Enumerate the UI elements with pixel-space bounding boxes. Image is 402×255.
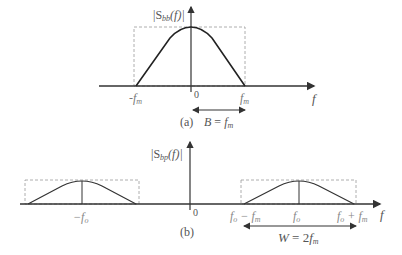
caption-a: (a) bbox=[180, 116, 193, 128]
x-axis-label-b: f bbox=[380, 208, 384, 221]
tick-label-neg-fo: −fo bbox=[73, 211, 88, 225]
tick-label-fo-plus-fm: fo + fm bbox=[337, 210, 368, 224]
envelope-box-a bbox=[134, 27, 245, 86]
x-axis-label-a: f bbox=[312, 92, 316, 105]
origin-label-a: 0 bbox=[194, 90, 199, 100]
caption-b: (b) bbox=[180, 226, 194, 238]
y-axis-label-a: |Sbb(f)| bbox=[153, 9, 185, 23]
bandwidth-label-a: B = fm bbox=[204, 116, 233, 130]
y-axis-label-b: |Sbp(f)| bbox=[151, 148, 183, 162]
tick-label-fo-minus-fm: fo − fm bbox=[230, 210, 261, 224]
bandwidth-label-b: W = 2fm bbox=[278, 231, 319, 246]
tick-label-fm: fm bbox=[240, 92, 249, 106]
tick-label-neg-fm: -fm bbox=[129, 92, 142, 106]
tick-label-fo: fo bbox=[293, 210, 300, 224]
origin-label-b: 0 bbox=[193, 208, 198, 218]
